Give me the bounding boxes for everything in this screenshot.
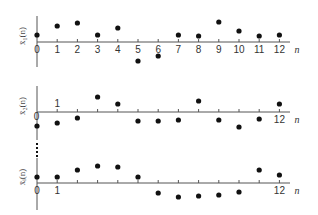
- data-point: [156, 118, 161, 123]
- x-tick-label: 6: [155, 44, 161, 55]
- data-point: [277, 101, 282, 106]
- data-point: [236, 28, 241, 33]
- y-axis-label: x̄₂(n): [17, 97, 27, 115]
- data-point: [55, 120, 60, 125]
- data-point: [236, 124, 241, 129]
- data-point: [75, 167, 80, 172]
- x-tick-label: 11: [254, 44, 265, 55]
- x-tick-label: 12: [274, 44, 286, 55]
- panel-x1: 0123456789101112nx̄₁(n): [17, 16, 300, 67]
- x-tick-label: 5: [135, 44, 141, 55]
- data-point: [75, 20, 80, 25]
- data-point: [135, 118, 140, 123]
- x-axis-label: n: [295, 114, 300, 125]
- panel-xi: 0112nx̄ᵢ(n): [17, 158, 300, 210]
- data-point: [176, 32, 181, 37]
- x-tick-label: 0: [34, 111, 40, 122]
- data-point: [196, 98, 201, 103]
- ellipsis-dot: [36, 147, 38, 149]
- x-tick-label: 4: [115, 44, 121, 55]
- x-tick-label: 12: [274, 185, 286, 196]
- x-tick-label: 0: [34, 44, 40, 55]
- data-point: [115, 101, 120, 106]
- x-tick-label: 1: [54, 185, 60, 196]
- data-point: [236, 189, 241, 194]
- y-axis-label: x̄ᵢ(n): [17, 169, 27, 185]
- data-point: [257, 116, 262, 121]
- x-tick-label: 10: [233, 44, 245, 55]
- data-point: [95, 32, 100, 37]
- panel-x2: 0112nx̄₂(n): [17, 86, 300, 140]
- data-point: [216, 117, 221, 122]
- x-tick-label: 3: [95, 44, 101, 55]
- data-point: [176, 117, 181, 122]
- data-point: [277, 172, 282, 177]
- ensemble-sequence-chart: 0123456789101112nx̄₁(n)0112nx̄₂(n)0112nx…: [0, 0, 318, 215]
- x-tick-label: 0: [34, 185, 40, 196]
- continuation-dots: [36, 143, 38, 157]
- x-tick-label: 9: [216, 44, 222, 55]
- data-point: [55, 23, 60, 28]
- data-point: [95, 163, 100, 168]
- x-tick-label: 2: [75, 44, 81, 55]
- data-point: [34, 123, 39, 128]
- ellipsis-dot: [36, 143, 38, 145]
- x-tick-label: 1: [54, 98, 60, 109]
- data-point: [257, 33, 262, 38]
- x-tick-label: 8: [196, 44, 202, 55]
- data-point: [176, 194, 181, 199]
- data-point: [115, 164, 120, 169]
- data-point: [95, 94, 100, 99]
- data-point: [156, 53, 161, 58]
- data-point: [216, 192, 221, 197]
- data-point: [75, 115, 80, 120]
- data-point: [196, 33, 201, 38]
- x-tick-label: 7: [176, 44, 182, 55]
- x-axis-label: n: [295, 44, 300, 55]
- data-point: [277, 32, 282, 37]
- data-point: [115, 25, 120, 30]
- x-axis-label: n: [295, 185, 300, 196]
- data-point: [34, 32, 39, 37]
- data-point: [55, 174, 60, 179]
- data-point: [34, 174, 39, 179]
- ellipsis-dot: [36, 151, 38, 153]
- data-point: [135, 174, 140, 179]
- ellipsis-dot: [36, 155, 38, 157]
- data-point: [135, 58, 140, 63]
- x-tick-label: 12: [274, 114, 286, 125]
- data-point: [216, 19, 221, 24]
- y-axis-label: x̄₁(n): [17, 27, 27, 45]
- data-point: [156, 190, 161, 195]
- x-tick-label: 1: [54, 44, 60, 55]
- data-point: [257, 167, 262, 172]
- data-point: [196, 193, 201, 198]
